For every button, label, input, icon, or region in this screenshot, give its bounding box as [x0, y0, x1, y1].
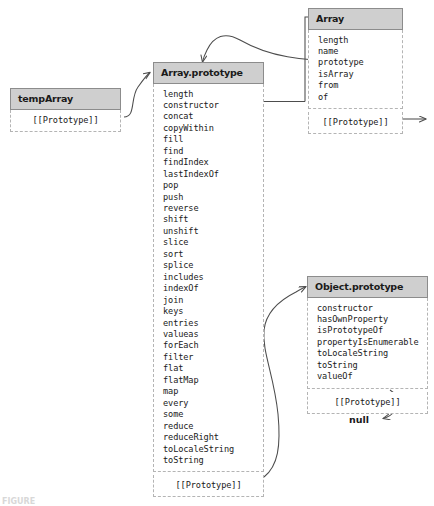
- box-array-constructor-prototype-row[interactable]: [[Prototype]]: [308, 112, 403, 134]
- array-prototype-prop-includes: includes: [163, 272, 263, 283]
- array-prototype-prop-find: find: [163, 146, 263, 157]
- array-prototype-prop-copyWithin: copyWithin: [163, 123, 263, 134]
- array-constructor-prop-prototype: prototype: [318, 57, 402, 68]
- array-prototype-prop-toString: toString: [163, 455, 263, 466]
- array-constructor-prop-length: length: [318, 35, 402, 46]
- array-prototype-prop-length: length: [163, 89, 263, 100]
- wire-array-prototype-to-object-prototype: [264, 287, 306, 478]
- array-constructor-prop-name: name: [318, 46, 402, 57]
- array-prototype-prop-fill: fill: [163, 134, 263, 145]
- array-prototype-prop-findIndex: findIndex: [163, 157, 263, 168]
- object-prototype-prop-isPrototypeOf: isPrototypeOf: [317, 325, 427, 336]
- array-prototype-prop-slice: slice: [163, 237, 263, 248]
- array-prototype-prop-flatMap: flatMap: [163, 375, 263, 386]
- array-prototype-prop-map: map: [163, 386, 263, 397]
- box-array-constructor[interactable]: Array lengthnameprototypeisArrayfromof […: [308, 8, 403, 134]
- array-prototype-prop-every: every: [163, 398, 263, 409]
- array-prototype-prop-flat: flat: [163, 363, 263, 374]
- array-constructor-prop-of: of: [318, 92, 402, 103]
- array-prototype-prop-valueas: valueas: [163, 329, 263, 340]
- array-prototype-prop-reduceRight: reduceRight: [163, 432, 263, 443]
- box-array-prototype-properties: lengthconstructorconcatcopyWithinfillfin…: [153, 84, 264, 473]
- array-prototype-prop-indexOf: indexOf: [163, 283, 263, 294]
- box-array-prototype-title: Array.prototype: [153, 62, 264, 84]
- figure-caption: FIGURE: [2, 497, 122, 505]
- array-prototype-prop-pop: pop: [163, 180, 263, 191]
- array-prototype-prop-entries: entries: [163, 318, 263, 329]
- array-prototype-prop-toLocaleString: toLocaleString: [163, 444, 263, 455]
- array-prototype-prop-concat: concat: [163, 111, 263, 122]
- object-prototype-prop-hasOwnProperty: hasOwnProperty: [317, 314, 427, 325]
- object-prototype-prop-valueOf: valueOf: [317, 371, 427, 382]
- box-object-prototype-title: Object.prototype: [307, 276, 428, 298]
- wire-temparray-to-array-prototype: [124, 73, 150, 118]
- array-prototype-prop-join: join: [163, 295, 263, 306]
- array-prototype-prop-forEach: forEach: [163, 340, 263, 351]
- array-prototype-prop-splice: splice: [163, 260, 263, 271]
- object-prototype-prop-propertyIsEnumerable: propertyIsEnumerable: [317, 337, 427, 348]
- array-prototype-prop-shift: shift: [163, 214, 263, 225]
- box-array-prototype-prototype-row[interactable]: [[Prototype]]: [153, 475, 264, 497]
- array-prototype-prop-constructor: constructor: [163, 100, 263, 111]
- array-prototype-prop-lastIndexOf: lastIndexOf: [163, 169, 263, 180]
- array-constructor-prop-isArray: isArray: [318, 69, 402, 80]
- object-prototype-prop-toString: toString: [317, 360, 427, 371]
- box-array-constructor-title: Array: [308, 8, 403, 30]
- array-prototype-prop-sort: sort: [163, 249, 263, 260]
- box-object-prototype-prototype-row[interactable]: [[Prototype]]: [307, 392, 428, 414]
- box-array-constructor-properties: lengthnameprototypeisArrayfromof: [308, 30, 403, 110]
- box-temp-array-prototype-row[interactable]: [[Prototype]]: [10, 110, 121, 132]
- array-prototype-prop-filter: filter: [163, 352, 263, 363]
- array-prototype-prop-some: some: [163, 409, 263, 420]
- array-prototype-prop-reduce: reduce: [163, 421, 263, 432]
- box-object-prototype[interactable]: Object.prototype constructorhasOwnProper…: [307, 276, 428, 414]
- box-object-prototype-properties: constructorhasOwnPropertyisPrototypeOfpr…: [307, 298, 428, 389]
- object-prototype-prop-toLocaleString: toLocaleString: [317, 348, 427, 359]
- array-prototype-prop-keys: keys: [163, 306, 263, 317]
- array-prototype-prop-reverse: reverse: [163, 203, 263, 214]
- box-temp-array[interactable]: tempArray [[Prototype]]: [10, 88, 121, 132]
- object-prototype-prop-constructor: constructor: [317, 303, 427, 314]
- prototype-chain-diagram: tempArray [[Prototype]] Array.prototype …: [0, 0, 434, 506]
- box-temp-array-title: tempArray: [10, 88, 121, 110]
- array-prototype-prop-unshift: unshift: [163, 226, 263, 237]
- array-prototype-prop-push: push: [163, 192, 263, 203]
- box-array-prototype[interactable]: Array.prototype lengthconstructorconcatc…: [153, 62, 264, 497]
- null-label: null: [349, 414, 369, 425]
- array-constructor-prop-from: from: [318, 80, 402, 91]
